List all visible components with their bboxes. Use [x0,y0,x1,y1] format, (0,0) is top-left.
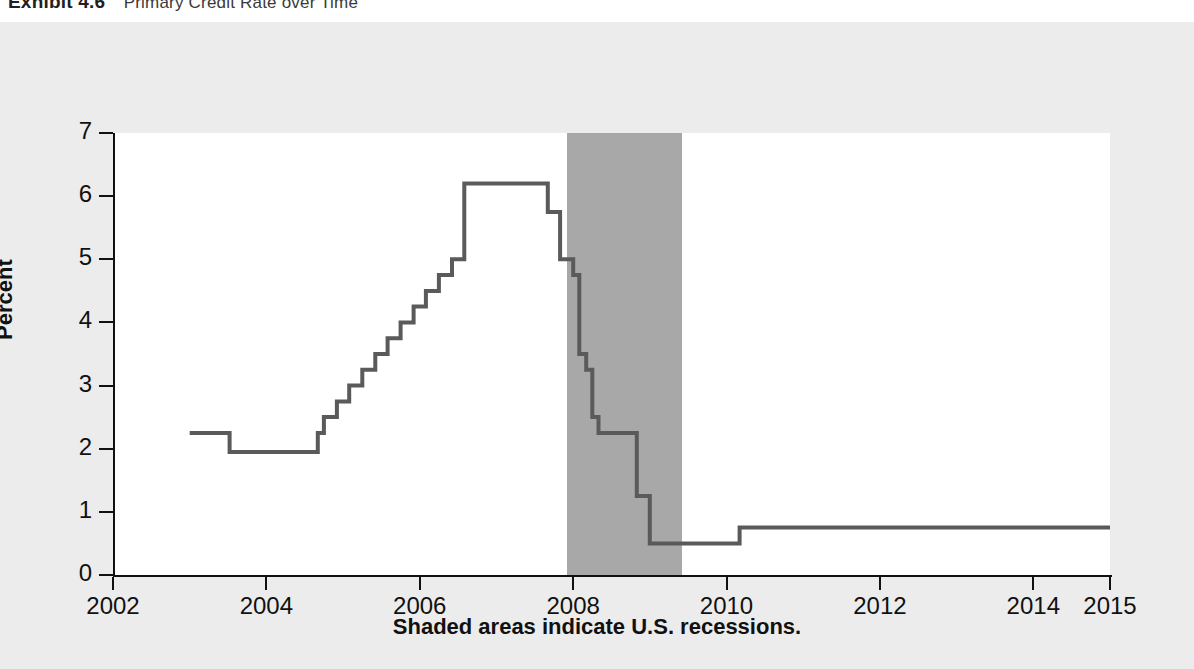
x-axis-tick [572,577,574,590]
y-axis-tick-label: 5 [52,243,92,271]
y-axis-tick [99,195,113,197]
x-axis-tick [879,577,881,590]
y-axis-tick [99,385,113,387]
y-axis-tick [99,574,113,576]
y-axis-tick-label: 3 [52,370,92,398]
plot-area [113,133,1110,577]
y-axis-tick [99,321,113,323]
y-axis-label: Percent [0,259,18,340]
y-axis-tick-label: 1 [52,496,92,524]
y-axis-line [113,133,115,577]
x-axis-tick [265,577,267,590]
y-axis-tick-label: 4 [52,306,92,334]
y-axis-tick [99,448,113,450]
y-axis-tick [99,258,113,260]
y-axis-tick-label: 6 [52,180,92,208]
exhibit-title: Primary Credit Rate over Time [124,0,358,12]
y-axis-tick-label: 0 [52,559,92,587]
y-axis-tick-label: 7 [52,117,92,145]
exhibit-header: Exhibit 4.6 Primary Credit Rate over Tim… [0,0,1194,22]
x-axis-tick [726,577,728,590]
x-axis-line [113,575,1112,577]
chart-caption: Shaded areas indicate U.S. recessions. [0,614,1194,640]
x-axis-tick [112,577,114,590]
chart-figure: 01234567 2002200420062008201020122014201… [0,22,1194,669]
y-axis-tick [99,511,113,513]
x-axis-tick [1109,577,1111,590]
y-axis-tick [99,132,113,134]
x-axis-tick [419,577,421,590]
y-axis-tick-label: 2 [52,433,92,461]
x-axis-tick [1032,577,1034,590]
recession-shaded-region [567,133,682,577]
exhibit-label: Exhibit 4.6 [8,0,105,12]
